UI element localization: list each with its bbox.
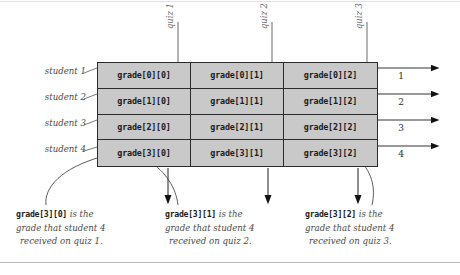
row-number-1: 1 xyxy=(394,71,408,81)
cell-grade-1-1[interactable]: grade[1][1] xyxy=(191,89,284,115)
caption-quiz-1: grade[3][0] is the grade that student 4 … xyxy=(16,208,156,249)
caption-1-code: grade[3][0] xyxy=(16,209,67,219)
cell-grade-0-2[interactable]: grade[0][2] xyxy=(284,63,377,89)
cell-grade-0-1[interactable]: grade[0][1] xyxy=(191,63,284,89)
top-rule xyxy=(0,1,460,2)
caption-quiz-3: grade[3][2] is the grade that student 4 … xyxy=(305,208,445,249)
caption-1-line3: received on quiz 1. xyxy=(16,235,156,249)
bottom-rule xyxy=(0,262,460,263)
quiz-tick-lines xyxy=(178,22,367,62)
row-label-student-4: student 4 xyxy=(8,144,86,154)
cell-grade-0-0[interactable]: grade[0][0] xyxy=(98,63,191,89)
caption-3-code: grade[3][2] xyxy=(305,209,356,219)
caption-quiz-2: grade[3][1] is the grade that student 4 … xyxy=(165,208,305,249)
caption-2-code: grade[3][1] xyxy=(165,209,216,219)
array-grid: grade[0][0] grade[0][1] grade[0][2] grad… xyxy=(97,62,378,167)
cell-grade-3-2[interactable]: grade[3][2] xyxy=(284,140,377,166)
cell-grade-2-0[interactable]: grade[2][0] xyxy=(98,115,191,141)
cell-grade-1-2[interactable]: grade[1][2] xyxy=(284,89,377,115)
cell-grade-2-2[interactable]: grade[2][2] xyxy=(284,115,377,141)
caption-3-line2: grade that student 4 xyxy=(305,222,445,236)
column-label-quiz-2: quiz 2 xyxy=(259,3,269,29)
caption-2-line3: received on quiz 2. xyxy=(165,235,305,249)
row-number-2: 2 xyxy=(394,97,408,107)
cell-grade-2-1[interactable]: grade[2][1] xyxy=(191,115,284,141)
student-leader-lines xyxy=(84,68,97,151)
row-number-4: 4 xyxy=(394,149,408,159)
caption-3-line1-rest: is the xyxy=(356,209,383,219)
column-label-quiz-3: quiz 3 xyxy=(354,3,364,29)
caption-1-line2: grade that student 4 xyxy=(16,222,156,236)
caption-2-line2: grade that student 4 xyxy=(165,222,305,236)
caption-down-arrows xyxy=(168,168,358,196)
diagram-canvas: grade[0][0] grade[0][1] grade[0][2] grad… xyxy=(0,0,460,275)
column-label-quiz-1: quiz 1 xyxy=(165,3,175,29)
row-number-3: 3 xyxy=(394,123,408,133)
row-label-student-3: student 3 xyxy=(8,118,86,128)
cell-grade-3-1[interactable]: grade[3][1] xyxy=(191,140,284,166)
cell-grade-1-0[interactable]: grade[1][0] xyxy=(98,89,191,115)
caption-3-line3: received on quiz 3. xyxy=(305,235,445,249)
cell-grade-3-0[interactable]: grade[3][0] xyxy=(98,140,191,166)
caption-1-line1-rest: is the xyxy=(67,209,94,219)
row-label-student-2: student 2 xyxy=(8,92,86,102)
caption-2-line1-rest: is the xyxy=(216,209,243,219)
row-label-student-1: student 1 xyxy=(8,66,86,76)
